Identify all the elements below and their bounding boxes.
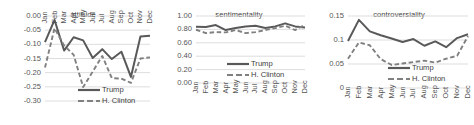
- legend-label: H. Clinton: [412, 75, 445, 83]
- x-tick-label: Sep: [117, 10, 124, 23]
- x-tick-label: Oct: [127, 12, 134, 24]
- x-tick-label: Dec: [301, 80, 308, 93]
- chart-panel-controversiality: controversiality0.150.10.050JanFebMarApr…: [310, 0, 474, 125]
- x-tick-label: Aug: [261, 80, 268, 93]
- x-tick-label: May: [387, 84, 394, 98]
- legend-item-h-clinton[interactable]: H. Clinton: [78, 95, 135, 106]
- x-tick-label: Jun: [241, 81, 248, 93]
- x-tick-label: Oct: [281, 82, 288, 94]
- legend-item-trump[interactable]: Trump: [227, 58, 284, 69]
- chart-panel-sentimentality: sentimentality1.000.800.600.400.200.00Ja…: [155, 0, 310, 125]
- x-tick-label: Jan: [344, 86, 351, 98]
- x-tick-label: Apr: [221, 82, 228, 94]
- x-tick-label: Nov: [291, 80, 298, 93]
- solid-line-icon: [78, 86, 100, 94]
- x-tick-label: Dec: [146, 10, 153, 23]
- x-tick-label: Jun: [398, 86, 405, 98]
- x-tick-label: Mar: [211, 81, 218, 94]
- x-tick-label: Apr: [376, 87, 383, 99]
- figure-three-line-charts: attitude0.00-0.05-0.10-0.15-0.20-0.25-0.…: [0, 0, 474, 125]
- dashed-line-icon: [388, 75, 410, 83]
- legend-item-trump[interactable]: Trump: [78, 84, 135, 95]
- x-tick-label: Nov: [453, 85, 460, 98]
- chart-legend: TrumpH. Clinton: [227, 58, 284, 80]
- legend-item-trump[interactable]: Trump: [388, 62, 445, 73]
- legend-label: Trump: [412, 64, 434, 72]
- x-tick-label: Oct: [442, 87, 449, 99]
- x-tick-label: Jul: [251, 84, 258, 93]
- x-tick-label: Feb: [355, 86, 362, 99]
- chart-panel-attitude: attitude0.00-0.05-0.10-0.15-0.20-0.25-0.…: [0, 0, 155, 125]
- legend-label: H. Clinton: [251, 71, 284, 79]
- x-tick-label: Aug: [107, 10, 114, 23]
- x-tick-label: Jun: [88, 11, 95, 23]
- x-tick-label: Feb: [202, 81, 209, 94]
- x-tick-label: Aug: [420, 85, 427, 98]
- x-tick-label: Feb: [50, 11, 57, 24]
- legend-item-h-clinton[interactable]: H. Clinton: [388, 73, 445, 84]
- x-tick-label: Apr: [69, 12, 76, 24]
- x-tick-label: May: [79, 9, 86, 23]
- legend-item-h-clinton[interactable]: H. Clinton: [227, 69, 284, 80]
- x-tick-label: Jul: [409, 89, 416, 98]
- dashed-line-icon: [78, 97, 100, 105]
- solid-line-icon: [388, 64, 410, 72]
- legend-label: H. Clinton: [102, 97, 135, 105]
- legend-label: Trump: [251, 60, 273, 68]
- x-tick-label: Mar: [365, 86, 372, 99]
- dashed-line-icon: [227, 71, 249, 79]
- x-tick-label: Jan: [41, 11, 48, 23]
- solid-line-icon: [227, 60, 249, 68]
- x-tick-label: Jul: [98, 14, 105, 23]
- x-tick-label: Sep: [271, 80, 278, 93]
- legend-label: Trump: [102, 86, 124, 94]
- x-tick-label: Jan: [192, 81, 199, 93]
- x-tick-label: Sep: [431, 85, 438, 98]
- x-tick-label: Dec: [464, 85, 471, 98]
- x-tick-label: Nov: [136, 10, 143, 23]
- series-line-trump: [45, 20, 150, 77]
- x-tick-label: Mar: [60, 11, 67, 24]
- series-line-trump: [348, 20, 468, 47]
- x-tick-label: May: [231, 79, 238, 93]
- chart-legend: TrumpH. Clinton: [78, 84, 135, 106]
- chart-legend: TrumpH. Clinton: [388, 62, 445, 84]
